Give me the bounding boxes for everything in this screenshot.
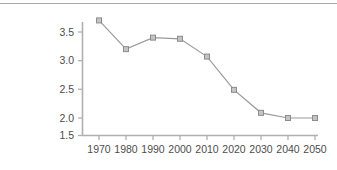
x-tick-label: 2030 <box>249 143 273 155</box>
y-tick-label: 1.5 <box>59 129 74 141</box>
data-point-marker <box>205 54 210 59</box>
data-series-line <box>99 20 315 118</box>
data-point-marker <box>97 18 102 23</box>
x-tick-label: 2020 <box>222 143 246 155</box>
chart-figure: 1.5 2.0 2.5 3.0 3.5 1970 1980 1990 2000 … <box>0 0 337 170</box>
x-axis-tick-labels: 1970 1980 1990 2000 2010 2020 2030 2040 … <box>87 143 327 155</box>
x-tick-label: 1970 <box>87 143 111 155</box>
data-point-markers <box>97 18 318 121</box>
y-tick-label: 2.5 <box>59 83 74 95</box>
data-point-marker <box>151 35 156 40</box>
y-tick-label: 2.0 <box>59 112 74 124</box>
data-point-marker <box>286 116 291 121</box>
line-chart-plot: 1.5 2.0 2.5 3.0 3.5 1970 1980 1990 2000 … <box>0 0 337 170</box>
x-tick-label: 1990 <box>141 143 165 155</box>
x-tick-label: 1980 <box>114 143 138 155</box>
x-tick-label: 2010 <box>195 143 219 155</box>
y-axis-tick-labels: 1.5 2.0 2.5 3.0 3.5 <box>59 26 74 142</box>
x-tick-label: 2050 <box>303 143 327 155</box>
data-point-marker <box>259 110 264 115</box>
x-tick-label: 2000 <box>168 143 192 155</box>
data-point-marker <box>232 87 237 92</box>
y-tick-label: 3.0 <box>59 54 74 66</box>
y-tick-label: 3.5 <box>59 26 74 38</box>
data-point-marker <box>178 36 183 41</box>
data-point-marker <box>124 47 129 52</box>
x-tick-label: 2040 <box>276 143 300 155</box>
data-point-marker <box>313 116 318 121</box>
